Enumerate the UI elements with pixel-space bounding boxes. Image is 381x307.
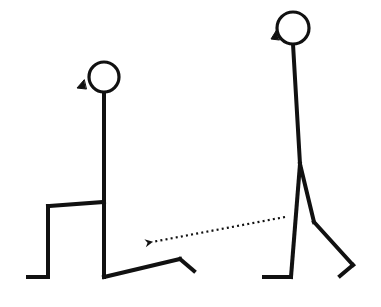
lunge-figure xyxy=(28,62,194,277)
standing-figure xyxy=(264,12,353,277)
back-foot-line xyxy=(180,259,194,271)
torso-line xyxy=(293,44,300,164)
head-circle xyxy=(277,12,309,44)
back-foot-line xyxy=(340,265,353,276)
diagram-svg xyxy=(0,0,381,307)
front-thigh-line xyxy=(48,202,104,206)
lunge-diagram: Stick figure illustration of a lunge exe… xyxy=(0,0,381,307)
dotted-arrow-line xyxy=(152,217,285,242)
beak-icon xyxy=(77,80,86,89)
back-thigh-line xyxy=(300,164,314,222)
head-circle xyxy=(89,62,119,92)
back-leg-line xyxy=(104,259,180,277)
motion-arrow xyxy=(152,217,285,242)
back-shin-line xyxy=(314,222,353,265)
front-leg-line xyxy=(291,164,300,277)
